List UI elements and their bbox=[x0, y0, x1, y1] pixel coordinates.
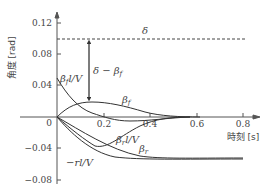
origin-label: 0 bbox=[46, 118, 52, 128]
x-axis-title: 時刻 [s] bbox=[227, 131, 260, 142]
label-delta: δ bbox=[142, 25, 148, 36]
label-betar-dot: β̇rl/V bbox=[115, 134, 141, 147]
y-axis-arrow-icon bbox=[55, 12, 59, 18]
y-tick-label: −0.04 bbox=[24, 143, 52, 153]
chart: 0.12 0.08 0.04 0 −0.04 −0.08 0.2 0.4 0.6… bbox=[0, 0, 271, 193]
x-tick-label: 0.2 bbox=[97, 119, 111, 129]
label-betaf: βf bbox=[121, 94, 132, 107]
y-tick-label: −0.08 bbox=[24, 175, 52, 185]
x-axis-arrow-icon bbox=[253, 115, 260, 119]
label-rl: −rl/V bbox=[66, 157, 95, 168]
x-tick-label: 0.6 bbox=[190, 119, 205, 129]
y-axis-title: 角度 [rad] bbox=[6, 37, 17, 80]
y-tick-label: 0.04 bbox=[32, 80, 52, 90]
y-tick-label: 0.08 bbox=[32, 49, 52, 59]
y-tick-label: 0.12 bbox=[32, 18, 52, 28]
label-betar: βr bbox=[138, 143, 149, 156]
label-betaf-dot: β̇fl/V bbox=[59, 73, 84, 86]
x-tick-label: 0.8 bbox=[236, 119, 251, 129]
label-delta-minus-betaf: δ − βf bbox=[93, 65, 124, 78]
